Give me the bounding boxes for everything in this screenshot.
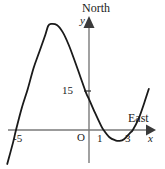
y-tick-label-15: 15 [62, 85, 73, 96]
x-tick-label-1: 1 [97, 133, 103, 144]
east-axis-label: East [128, 112, 149, 124]
north-axis-label: North [82, 2, 110, 14]
y-axis-symbol-label: y [80, 15, 85, 26]
coordinate-graph-figure: North East y x O 15 -5 1 3 [0, 0, 165, 169]
x-tick-label-minus5: -5 [13, 133, 22, 144]
x-tick-label-3: 3 [125, 133, 131, 144]
origin-label: O [77, 132, 85, 143]
x-axis-symbol-label: x [148, 133, 153, 144]
